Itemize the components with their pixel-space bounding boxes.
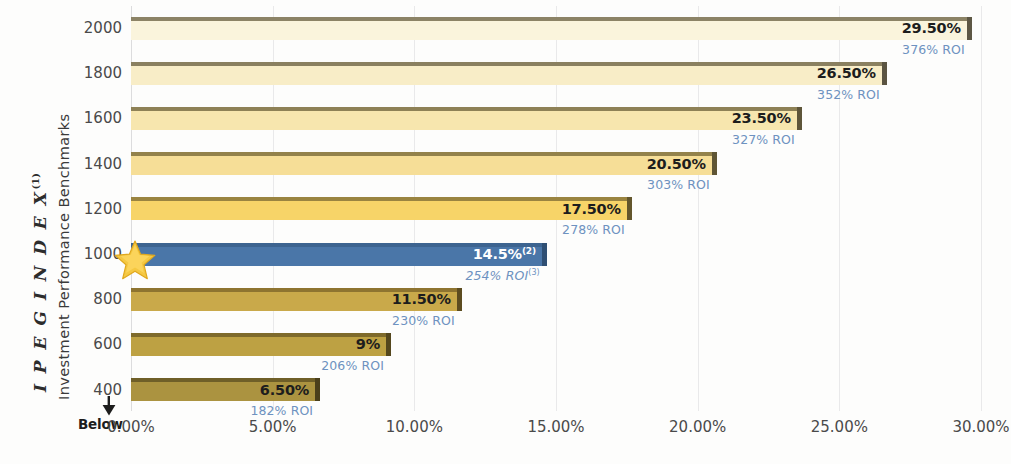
bar-row: 26.50%352% ROI (131, 62, 981, 85)
bar-end-cap (386, 333, 391, 356)
bar-top-edge (131, 333, 386, 337)
roi-label: 230% ROI (392, 313, 455, 328)
bar-800[interactable]: 11.50% (131, 288, 457, 311)
roi-label: 303% ROI (647, 177, 710, 192)
bar-top-edge (131, 17, 967, 21)
bar-end-cap (967, 17, 972, 40)
bar-end-cap (627, 197, 632, 220)
roi-label: 278% ROI (562, 222, 625, 237)
bar-end-cap (882, 62, 887, 85)
bar-value-superscript: (2) (522, 246, 536, 256)
y-axis-primary-title: I P E G I N D E X(1) (30, 173, 50, 392)
bar-top-edge (131, 107, 797, 111)
bar-value-label: 17.50% (562, 201, 621, 217)
y-tick-800: 800 (62, 290, 122, 308)
x-tick-0: 0.00% (107, 418, 155, 436)
bar-value-label: 23.50% (732, 110, 791, 126)
bar-value-label: 11.50% (392, 291, 451, 307)
roi-label: 182% ROI (250, 403, 313, 418)
gridline (981, 6, 982, 411)
y-tick-1800: 1800 (62, 64, 122, 82)
bar-row: 14.5%(2)254% ROI(3) (131, 243, 981, 266)
bar-row: 23.50%327% ROI (131, 107, 981, 130)
bar-row: 11.50%230% ROI (131, 288, 981, 311)
x-axis-tick-labels: 0.00%5.00%10.00%15.00%20.00%25.00%30.00% (131, 418, 981, 448)
roi-superscript: (3) (528, 268, 540, 277)
x-tick-30: 30.00% (952, 418, 1009, 436)
bar-value-label: 9% (356, 336, 380, 352)
bar-row: 20.50%303% ROI (131, 152, 981, 175)
bar-400[interactable]: 6.50% (131, 378, 315, 401)
y-axis-primary-title-text: I P E G I N D E X (30, 190, 50, 392)
roi-label: 376% ROI (902, 42, 965, 57)
plot-area: 29.50%376% ROI26.50%352% ROI23.50%327% R… (131, 6, 981, 411)
y-tick-1400: 1400 (62, 155, 122, 173)
x-tick-10: 10.00% (386, 418, 443, 436)
y-axis-tick-labels: 200018001600140012001000800600400 (60, 0, 122, 464)
bar-top-edge (131, 152, 712, 156)
roi-label: 352% ROI (817, 87, 880, 102)
roi-label-text: 254% ROI (465, 268, 528, 283)
bar-value-label: 29.50% (902, 20, 961, 36)
star-marker-icon (113, 238, 157, 282)
bar-end-cap (542, 243, 547, 266)
y-tick-1200: 1200 (62, 200, 122, 218)
y-tick-600: 600 (62, 335, 122, 353)
bar-top-edge (131, 197, 627, 201)
bar-1400[interactable]: 20.50% (131, 152, 712, 175)
bar-value-label: 6.50% (260, 382, 309, 398)
roi-label: 327% ROI (732, 132, 795, 147)
y-axis-primary-title-superscript: (1) (30, 173, 41, 189)
chart-container: I P E G I N D E X(1) Investment Performa… (0, 0, 1011, 464)
y-axis-title-group: I P E G I N D E X(1) Investment Performa… (0, 0, 62, 420)
bar-600[interactable]: 9% (131, 333, 386, 356)
bar-row: 17.50%278% ROI (131, 197, 981, 220)
y-tick-2000: 2000 (62, 19, 122, 37)
bar-row: 29.50%376% ROI (131, 17, 981, 40)
x-tick-20: 20.00% (669, 418, 726, 436)
bar-end-cap (712, 152, 717, 175)
bar-value-label: 26.50% (817, 65, 876, 81)
roi-label: 206% ROI (321, 358, 384, 373)
y-tick-1600: 1600 (62, 109, 122, 127)
bar-1000[interactable]: 14.5%(2) (131, 243, 542, 266)
x-tick-15: 15.00% (527, 418, 584, 436)
roi-label: 254% ROI(3) (465, 268, 539, 283)
bar-value-label: 14.5%(2) (473, 246, 536, 263)
bar-1200[interactable]: 17.50% (131, 197, 627, 220)
bar-top-edge (131, 62, 882, 66)
x-tick-5: 5.00% (249, 418, 297, 436)
bar-1800[interactable]: 26.50% (131, 62, 882, 85)
bar-end-cap (797, 107, 802, 130)
bar-end-cap (457, 288, 462, 311)
bar-end-cap (315, 378, 320, 401)
bar-1600[interactable]: 23.50% (131, 107, 797, 130)
bar-2000[interactable]: 29.50% (131, 17, 967, 40)
bar-row: 9%206% ROI (131, 333, 981, 356)
x-tick-25: 25.00% (811, 418, 868, 436)
bar-value-label: 20.50% (647, 156, 706, 172)
bar-row: 6.50%182% ROI (131, 378, 981, 401)
